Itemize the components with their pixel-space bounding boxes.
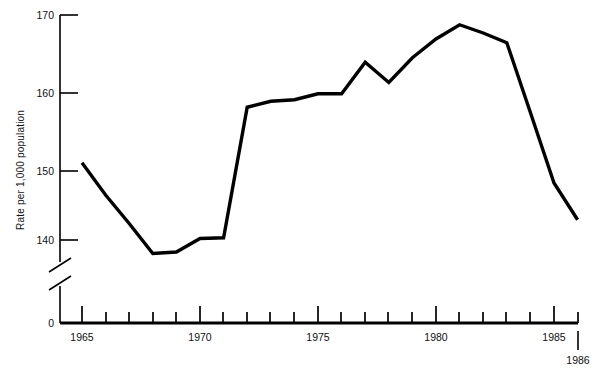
x-tick-label-1980: 1980 [424,331,448,343]
x-tick-label-1970: 1970 [188,331,212,343]
chart-container: 170 160 150 140 0 Rate per 1,000 populat… [0,0,610,376]
x-tick-label-1965: 1965 [70,331,94,343]
y-axis-break-icon [49,258,71,290]
x-tick-label-1986: 1986 [566,354,590,366]
y-tick-label-170: 170 [36,9,54,21]
y-tick-label-zero: 0 [48,317,54,329]
y-tick-label-150: 150 [36,165,54,177]
y-tick-label-160: 160 [36,87,54,99]
x-axis-minor-ticks [82,306,578,323]
x-tick-label-1985: 1985 [542,331,566,343]
x-tick-label-1975: 1975 [306,331,330,343]
y-tick-label-140: 140 [36,234,54,246]
data-series-line [82,25,578,254]
y-axis-title: Rate per 1,000 population [15,110,26,230]
line-chart: 170 160 150 140 0 Rate per 1,000 populat… [0,0,610,376]
y-axis-ticks [60,15,78,240]
